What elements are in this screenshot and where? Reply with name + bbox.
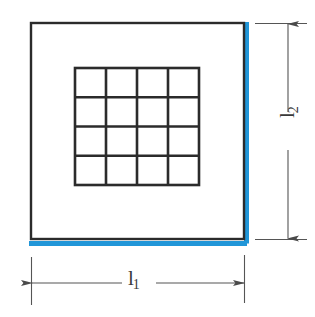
technical-diagram — [0, 0, 315, 317]
dimension-label-l2-subscript: 2 — [286, 106, 301, 113]
dimension-label-l2-base: l — [275, 112, 299, 118]
diagram-canvas: l1 l2 — [0, 0, 315, 317]
dimension-label-l1: l1 — [128, 268, 140, 292]
height-dimension — [255, 24, 307, 240]
dimension-label-l2: l2 — [277, 106, 301, 118]
dimension-label-l1-subscript: 1 — [133, 277, 140, 292]
